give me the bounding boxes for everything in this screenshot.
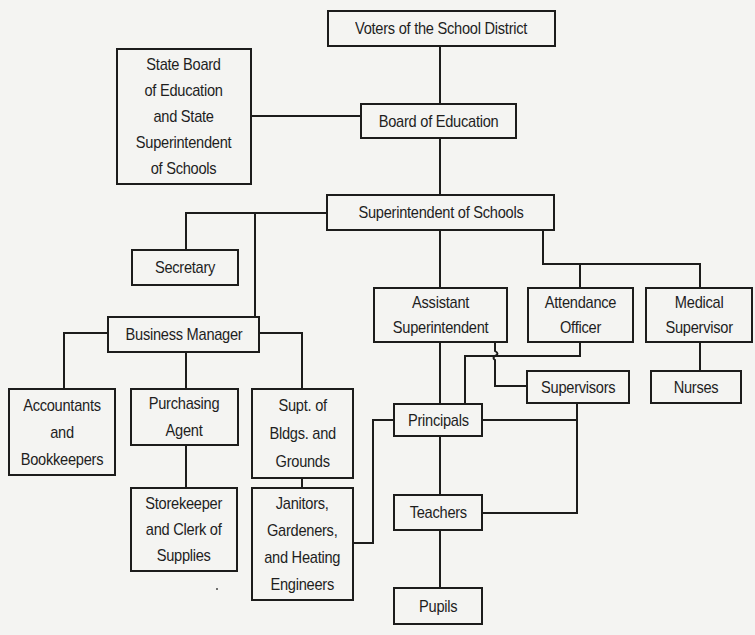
node-teachers: Teachers (393, 494, 483, 531)
node-label: Attendance Officer (545, 290, 616, 340)
print-speck (216, 588, 218, 590)
node-label: Nurses (674, 374, 719, 401)
node-state-board: State Board of Education and State Super… (116, 48, 252, 185)
node-board-of-education: Board of Education (360, 103, 517, 139)
node-pupils: Pupils (393, 587, 483, 625)
node-label: Principals (408, 407, 469, 434)
edge-superintendent-medical (543, 230, 700, 287)
node-label: Accountants and Bookkeepers (21, 392, 104, 473)
node-label: Business Manager (125, 321, 242, 348)
edge-business-accountants (64, 333, 107, 388)
node-supervisors: Supervisors (526, 370, 630, 404)
node-superintendent: Superintendent of Schools (326, 194, 555, 231)
edge-business-supt-bldgs (259, 333, 302, 388)
node-label: Teachers (409, 499, 466, 526)
node-attendance-officer: Attendance Officer (527, 287, 634, 343)
node-janitors: Janitors, Gardeners, and Heating Enginee… (251, 487, 354, 601)
node-label: Storekeeper and Clerk of Supplies (146, 491, 223, 569)
node-label: Secretary (155, 254, 215, 281)
node-label: Board of Education (379, 108, 499, 135)
node-assistant-superintendent: Assistant Superintendent (373, 287, 508, 343)
edge-janitors-principals (353, 420, 393, 543)
node-label: Superintendent of Schools (358, 199, 523, 226)
node-label: Pupils (419, 593, 457, 620)
node-supt-bldgs-grounds: Supt. of Bldgs. and Grounds (251, 388, 354, 479)
node-label: Janitors, Gardeners, and Heating Enginee… (264, 490, 340, 598)
node-label: Medical Supervisor (665, 290, 732, 340)
node-purchasing-agent: Purchasing Agent (130, 388, 239, 446)
node-label: Voters of the School District (355, 15, 527, 42)
node-label: Supervisors (541, 374, 615, 401)
node-label: Supt. of Bldgs. and Grounds (269, 392, 336, 476)
node-secretary: Secretary (131, 249, 239, 286)
node-storekeeper: Storekeeper and Clerk of Supplies (130, 487, 238, 572)
node-accountants: Accountants and Bookkeepers (8, 388, 116, 476)
node-medical-supervisor: Medical Supervisor (645, 287, 753, 343)
node-principals: Principals (393, 403, 483, 437)
node-nurses: Nurses (650, 370, 742, 404)
node-business-manager: Business Manager (107, 316, 260, 353)
edge-assistant-supervisors (494, 342, 527, 386)
node-label: State Board of Education and State Super… (136, 52, 232, 182)
node-label: Assistant Superintendent (393, 290, 489, 340)
node-label: Purchasing Agent (149, 390, 220, 444)
node-voters: Voters of the School District (327, 10, 556, 47)
